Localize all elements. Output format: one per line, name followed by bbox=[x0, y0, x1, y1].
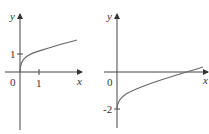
graphs: y x 0 1 1 y x 0 -2 bbox=[0, 0, 209, 134]
right-origin-label: 0 bbox=[107, 76, 113, 88]
right-curve bbox=[117, 67, 203, 109]
left-x-label: x bbox=[76, 75, 82, 87]
left-origin-label: 0 bbox=[10, 76, 16, 88]
left-graph: y x 0 1 1 bbox=[5, 10, 82, 130]
left-y-label: y bbox=[9, 10, 15, 22]
left-xtick-label: 1 bbox=[36, 77, 42, 89]
right-y-label: y bbox=[106, 10, 112, 22]
right-graph: y x 0 -2 bbox=[103, 10, 208, 128]
left-curve bbox=[20, 40, 77, 72]
right-ytick-label: -2 bbox=[103, 103, 112, 115]
left-ytick-label: 1 bbox=[10, 48, 16, 60]
right-x-label: x bbox=[202, 74, 208, 86]
